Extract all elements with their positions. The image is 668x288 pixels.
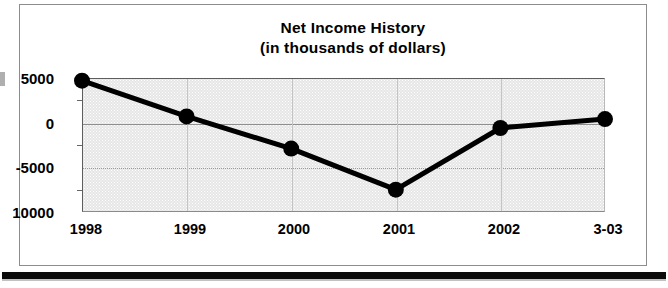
gridline-1999 <box>187 79 188 211</box>
plot-area <box>82 78 605 212</box>
x-axis-label-1998: 1998 <box>70 222 102 237</box>
chart-subtitle: (in thousands of dollars) <box>39 39 667 57</box>
scan-artifact-mark <box>0 72 5 86</box>
gridline-2001 <box>397 79 398 211</box>
y-axis-label-0: 0 <box>46 116 54 131</box>
gridline-2000 <box>292 79 293 211</box>
x-axis-label-2001: 2001 <box>383 222 415 237</box>
page-bottom-rule-shadow <box>2 279 666 281</box>
y-axis-label-5000: 5000 <box>21 71 54 86</box>
gridline-neg5000 <box>83 168 604 169</box>
x-axis-label-1999: 1999 <box>174 222 206 237</box>
x-axis-label-2000: 2000 <box>278 222 310 237</box>
x-axis-label-3-03: 3-03 <box>593 222 622 237</box>
page-bottom-rule <box>2 272 666 279</box>
gridline-2002 <box>501 79 502 211</box>
chart-title: Net Income History <box>39 19 667 37</box>
y-axis-label-neg5000: -5000 <box>16 160 54 175</box>
y-axis-label-neg10000: 10000 <box>12 205 54 220</box>
x-axis-label-2002: 2002 <box>488 222 520 237</box>
gridline-zero <box>83 124 604 125</box>
